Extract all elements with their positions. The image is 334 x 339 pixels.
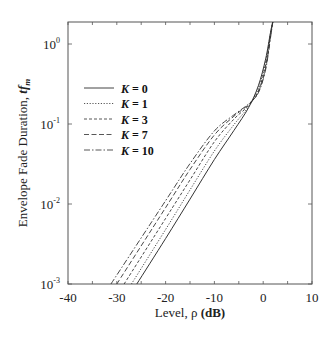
x-tick-label: -30 [108, 290, 125, 305]
x-axis-label: Level, ρ (dB) [155, 305, 225, 320]
y-tick-label: 10-1 [40, 116, 60, 132]
y-tick-label: 100 [43, 36, 60, 52]
legend-label: K = 10 [120, 144, 154, 158]
y-axis-label: Envelope Fade Duration, tfm [15, 79, 32, 228]
plot-frame [68, 22, 312, 284]
series-line [137, 21, 273, 284]
x-tick-label: -10 [206, 290, 223, 305]
x-tick-label: -20 [157, 290, 174, 305]
x-tick-label: 0 [260, 290, 267, 305]
y-axis-ticks: 10-310-210-1100 [40, 36, 312, 292]
x-axis-ticks: -40-30-20-10010 [59, 22, 318, 305]
y-tick-label: 10-2 [40, 196, 60, 212]
legend-label: K = 0 [120, 82, 148, 96]
fade-duration-chart: -40-30-20-10010 10-310-210-1100 K = 0K =… [0, 0, 334, 339]
legend: K = 0K = 1K = 3K = 7K = 10 [84, 82, 154, 158]
x-tick-label: 10 [306, 290, 319, 305]
legend-label: K = 1 [120, 97, 148, 111]
x-tick-label: -40 [59, 290, 76, 305]
y-tick-label: 10-3 [40, 276, 60, 292]
legend-label: K = 3 [120, 113, 148, 127]
legend-label: K = 7 [120, 128, 148, 142]
